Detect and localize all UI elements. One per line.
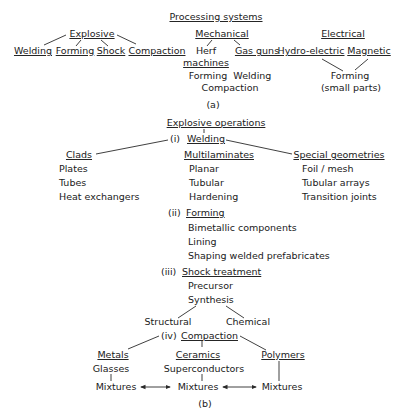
mechanical-apps-line1: Forming Welding (189, 70, 272, 81)
node-chemical: Chemical (226, 316, 270, 327)
title-explosive-operations: Explosive operations (167, 117, 266, 128)
clads-item: Plates (59, 163, 88, 174)
node-precursor: Precursor (188, 280, 233, 291)
node-magnetic: Magnetic (347, 45, 391, 56)
connector (117, 35, 136, 44)
shock-prefix: (iii) (161, 266, 176, 277)
connector (128, 336, 159, 349)
title-processing-systems: Processing systems (169, 11, 262, 22)
forming-item: Shaping welded prefabricates (188, 250, 330, 261)
node-shock-treatment: Shock treatment (182, 266, 262, 277)
node-gas-guns: Gas guns (235, 45, 279, 56)
processing-systems-diagram: Processing systems Explosive Welding For… (0, 0, 420, 415)
welding-prefix: (i) (170, 133, 180, 144)
forming-item: Lining (188, 236, 217, 247)
node-herf: Herf (196, 45, 217, 56)
clads-item: Tubes (58, 177, 86, 188)
special-item: Transition joints (301, 191, 377, 202)
node-forming-op: Forming (186, 207, 225, 218)
electrical-result-line1: Forming (331, 70, 370, 81)
special-item: Tubular arrays (301, 177, 370, 188)
multilaminates-item: Hardening (189, 191, 238, 202)
node-structural: Structural (144, 316, 191, 327)
node-compaction-op: Compaction (181, 330, 238, 341)
multilaminates-item: Tubular (188, 177, 224, 188)
special-item: Foil / mesh (302, 163, 354, 174)
node-glasses: Glasses (93, 363, 130, 374)
node-welding-op: Welding (187, 133, 225, 144)
clads-item: Heat exchangers (59, 191, 140, 202)
node-mechanical: Mechanical (195, 28, 248, 39)
connector (240, 336, 266, 350)
node-special-geometries: Special geometries (293, 149, 384, 160)
connector (96, 140, 168, 154)
node-forming: Forming (56, 45, 95, 56)
node-welding: Welding (14, 45, 52, 56)
multilaminates-item: Planar (189, 163, 219, 174)
node-metals: Metals (97, 349, 128, 360)
connector (44, 35, 66, 45)
node-compaction: Compaction (129, 45, 186, 56)
node-hydro-electric: Hydro-electric (278, 45, 345, 56)
forming-item: Bimetallic components (188, 222, 297, 233)
node-mixtures-metals: Mixtures (96, 381, 137, 392)
node-shock: Shock (97, 45, 126, 56)
node-explosive: Explosive (69, 28, 114, 39)
compaction-prefix: (iv) (161, 330, 177, 341)
node-superconductors: Superconductors (164, 363, 244, 374)
part-a-label: (a) (206, 99, 219, 110)
connector (355, 59, 368, 70)
node-synthesis: Synthesis (188, 294, 234, 305)
node-polymers: Polymers (261, 349, 304, 360)
node-clads: Clads (66, 149, 92, 160)
node-ceramics: Ceramics (176, 349, 220, 360)
node-electrical: Electrical (321, 28, 365, 39)
node-mixtures-ceramics: Mixtures (178, 381, 219, 392)
part-b-label: (b) (198, 398, 211, 409)
node-multilaminates: Multilaminates (184, 149, 254, 160)
node-herf-machines: machines (183, 57, 229, 68)
electrical-result-line2: (small parts) (321, 82, 381, 93)
mechanical-apps-line2: Compaction (202, 82, 259, 93)
forming-prefix: (ii) (168, 207, 181, 218)
node-mixtures-polymers: Mixtures (262, 381, 303, 392)
